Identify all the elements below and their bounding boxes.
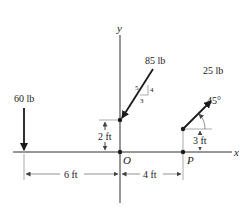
origin-label: O (123, 154, 131, 166)
y-axis: y (116, 22, 122, 203)
point-p-label: P (186, 154, 194, 166)
dim-3ft-label: 3 ft (193, 135, 207, 146)
slope-rise: 4 (150, 86, 154, 94)
force-60lb: 60 lb (14, 93, 34, 150)
dimension-3ft: 3 ft (192, 131, 210, 150)
dim-6ft-label: 6 ft (64, 169, 78, 180)
slope-hyp: 5 (135, 84, 139, 92)
x-axis-label: x (233, 146, 239, 158)
dimension-6ft: 6 ft (24, 154, 118, 180)
dimension-2ft: 2 ft (97, 120, 118, 150)
slope-run: 3 (140, 97, 144, 105)
angle-45-label: 45° (207, 95, 221, 106)
dim-2ft-label: 2 ft (98, 131, 112, 142)
dimension-4ft: 4 ft (122, 154, 183, 180)
force-85-label: 85 lb (145, 55, 165, 66)
dim-4ft-label: 4 ft (143, 169, 157, 180)
force-diagram: x y O P 60 lb 85 lb 5 4 3 2 ft (0, 0, 249, 213)
force-25-label: 25 lb (203, 65, 223, 76)
force-85lb: 85 lb 5 4 3 (118, 55, 165, 122)
y-axis-label: y (116, 22, 122, 34)
force-60-label: 60 lb (14, 93, 34, 104)
